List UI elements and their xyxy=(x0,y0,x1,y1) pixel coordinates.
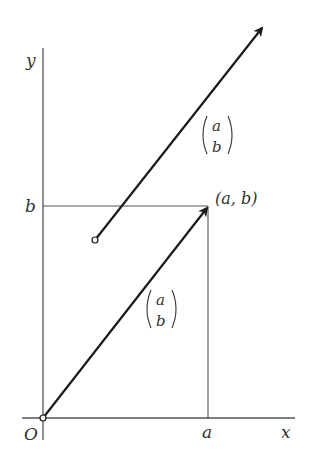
translated-vector-arrow xyxy=(95,28,262,240)
translated-vector-label: a b xyxy=(203,116,232,156)
b-tick-label: b xyxy=(25,196,36,216)
position-vector-top: a xyxy=(156,291,165,309)
a-tick-label: a xyxy=(202,422,212,442)
point-label: (a, b) xyxy=(215,189,257,208)
position-vector-arrow xyxy=(43,208,207,418)
translated-vector-bottom: b xyxy=(212,138,222,156)
position-vector-label: a b xyxy=(147,290,176,330)
position-vector-bottom: b xyxy=(156,312,166,330)
vector-diagram: y x O a b (a, b) a b a b xyxy=(0,0,318,456)
origin-label: O xyxy=(24,424,38,444)
y-axis-label: y xyxy=(25,50,36,70)
translated-vector-top: a xyxy=(212,117,221,135)
origin-point xyxy=(40,415,46,421)
translated-vector-tail xyxy=(92,237,98,243)
x-axis-label: x xyxy=(281,422,291,442)
